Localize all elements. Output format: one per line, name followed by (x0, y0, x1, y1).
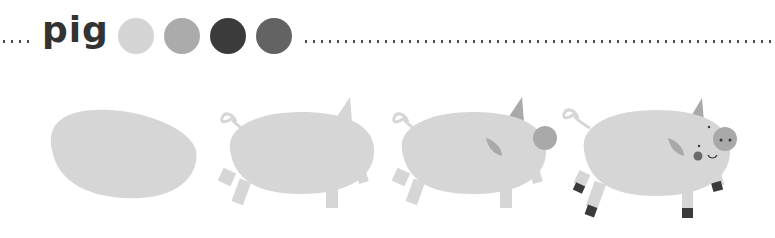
pig-step-1 (51, 110, 197, 198)
pig-steps-illustration (0, 0, 775, 238)
pig-step-3 (392, 97, 557, 208)
pig-step-4 (564, 98, 737, 218)
pig-step-2 (218, 97, 374, 208)
